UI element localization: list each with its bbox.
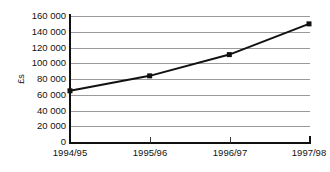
plot-area — [70, 16, 310, 142]
x-axis-tick-labels: 1994/95 1995/96 1996/97 1997/98 — [0, 147, 330, 163]
gridline — [70, 79, 310, 80]
y-tick-label: 120 000 — [8, 43, 66, 53]
x-axis-tick — [230, 137, 231, 143]
gridline — [70, 32, 310, 33]
x-axis-tick — [69, 136, 71, 144]
y-tick-label: 160 000 — [8, 11, 66, 21]
y-tick-label: 60 000 — [8, 90, 66, 100]
x-tick-label: 1997/98 — [274, 147, 330, 159]
y-tick-label: 40 000 — [8, 106, 66, 116]
line-chart: £s 160 000 140 000 120 000 100 000 80 00… — [0, 0, 330, 172]
x-axis-tick — [309, 136, 311, 144]
y-tick-label: 20 000 — [8, 121, 66, 131]
gridline — [70, 16, 310, 17]
x-tick-label: 1996/97 — [195, 147, 265, 159]
gridline — [70, 111, 310, 112]
gridline — [70, 95, 310, 96]
x-tick-label: 1994/95 — [35, 147, 105, 159]
y-tick-label: 0 — [8, 137, 66, 147]
y-tick-label: 140 000 — [8, 27, 66, 37]
x-tick-label: 1995/96 — [115, 147, 185, 159]
y-tick-label: 100 000 — [8, 58, 66, 68]
gridline — [70, 48, 310, 49]
gridline — [70, 126, 310, 127]
y-axis-line — [69, 14, 71, 144]
x-axis-line — [69, 142, 311, 144]
x-axis-tick — [150, 137, 151, 143]
gridline — [70, 63, 310, 64]
y-tick-label: 80 000 — [8, 74, 66, 84]
